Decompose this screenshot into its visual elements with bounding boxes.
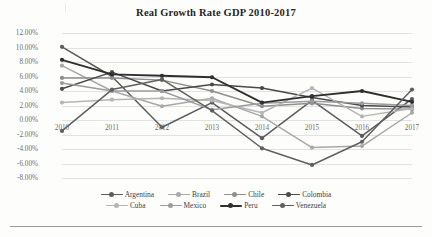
x-axis-tick-label: 2010 (55, 124, 69, 132)
data-point (60, 81, 64, 85)
legend-marker-icon (220, 202, 242, 210)
x-axis-tick-label: 2016 (355, 124, 369, 132)
x-axis-tick-label: 2015 (305, 124, 319, 132)
data-point (260, 101, 264, 105)
data-point (360, 114, 364, 118)
data-point (310, 145, 314, 149)
data-point (360, 144, 364, 148)
legend-label: Peru (244, 201, 258, 210)
x-axis-tick-label: 2014 (255, 124, 269, 132)
legend-label: Mexico (184, 201, 207, 210)
data-point (110, 87, 114, 91)
y-axis-tick-label: 6.00% (0, 73, 38, 81)
data-point (260, 111, 264, 115)
data-point (210, 82, 214, 86)
legend-label: Chile (248, 190, 264, 199)
gridline (62, 178, 412, 179)
legend-item-cuba[interactable]: Cuba (106, 201, 146, 210)
bottom-divider (10, 226, 422, 227)
y-axis-tick-label: 0.00% (0, 116, 38, 124)
data-point (60, 64, 64, 68)
series-lines (62, 33, 412, 178)
data-point (160, 74, 164, 78)
data-point (360, 140, 364, 144)
data-point (160, 104, 164, 108)
data-point (60, 87, 64, 91)
legend-item-colombia[interactable]: Colombia (278, 190, 331, 199)
data-point (160, 89, 164, 93)
legend-marker-icon (106, 202, 128, 210)
legend-label: Argentina (125, 190, 154, 199)
data-point (160, 77, 164, 81)
legend-label: Venezuela (296, 201, 326, 210)
data-point (110, 98, 114, 102)
legend-item-brazil[interactable]: Brazil (168, 190, 210, 199)
x-axis-tick-label: 2017 (405, 124, 419, 132)
data-point (310, 94, 314, 98)
data-point (110, 76, 114, 80)
series-peru (60, 58, 414, 105)
data-point (360, 134, 364, 138)
data-point (260, 146, 264, 150)
legend-marker-icon (224, 191, 246, 199)
data-point (210, 75, 214, 79)
y-axis-tick-label: 10.00% (0, 44, 38, 52)
data-point (210, 98, 214, 102)
data-point (60, 101, 64, 105)
legend-item-argentina[interactable]: Argentina (101, 190, 154, 199)
data-point (310, 86, 314, 90)
legend-marker-icon (278, 191, 300, 199)
legend-label: Cuba (130, 201, 146, 210)
data-point (210, 89, 214, 93)
legend-item-peru[interactable]: Peru (220, 201, 258, 210)
legend-marker-icon (160, 202, 182, 210)
legend-marker-icon (101, 191, 123, 199)
data-point (410, 100, 414, 104)
data-point (310, 99, 314, 103)
y-axis-tick-label: 2.00% (0, 102, 38, 110)
data-point (410, 103, 414, 107)
plot-area: 12.00%10.00%8.00%6.00%4.00%2.00%0.00%-2.… (62, 33, 412, 178)
legend-item-mexico[interactable]: Mexico (160, 201, 207, 210)
legend-row-2: CubaMexicoPeruVenezuela (106, 201, 326, 210)
data-point (60, 45, 64, 49)
x-axis-tick-label: 2012 (155, 124, 169, 132)
data-point (260, 136, 264, 140)
data-point (60, 58, 64, 62)
legend-marker-icon (272, 202, 294, 210)
y-axis-tick-label: 8.00% (0, 58, 38, 66)
data-point (210, 108, 214, 112)
legend-label: Brazil (192, 190, 210, 199)
x-axis-tick-labels: 20102011201220132014201520162017 (62, 124, 412, 134)
legend-item-chile[interactable]: Chile (224, 190, 264, 199)
y-axis-tick-label: -8.00% (0, 174, 38, 182)
y-axis-tick-label: -2.00% (0, 131, 38, 139)
legend-row-1: ArgentinaBrazilChileColombia (101, 190, 332, 199)
data-point (60, 76, 64, 80)
y-axis-tick-label: -6.00% (0, 160, 38, 168)
data-point (160, 96, 164, 100)
legend-marker-icon (168, 191, 190, 199)
series-line (62, 60, 412, 103)
y-axis-tick-label: -4.00% (0, 145, 38, 153)
data-point (410, 87, 414, 91)
data-point (260, 86, 264, 90)
chart-legend: ArgentinaBrazilChileColombia CubaMexicoP… (0, 190, 432, 210)
gdp-growth-chart: Real Growth Rate GDP 2010-2017 12.00%10.… (0, 0, 432, 237)
data-point (310, 163, 314, 167)
data-point (410, 111, 414, 115)
data-point (360, 101, 364, 105)
y-axis-tick-label: 4.00% (0, 87, 38, 95)
legend-item-venezuela[interactable]: Venezuela (272, 201, 326, 210)
data-point (110, 72, 114, 76)
x-axis-tick-label: 2013 (205, 124, 219, 132)
x-axis-tick-label: 2011 (105, 124, 119, 132)
legend-label: Colombia (302, 190, 331, 199)
y-axis-tick-label: 12.00% (0, 29, 38, 37)
chart-title: Real Growth Rate GDP 2010-2017 (0, 7, 432, 18)
data-point (360, 89, 364, 93)
data-point (260, 114, 264, 118)
